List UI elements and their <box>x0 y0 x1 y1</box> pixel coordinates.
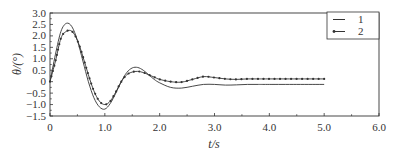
x-tick-label: 5.0 <box>317 121 331 133</box>
x-tick-label: 0 <box>47 121 53 133</box>
x-tick-label: 2.0 <box>153 121 167 133</box>
y-tick-label: −0.5 <box>26 87 46 99</box>
x-tick-label: 4.0 <box>262 121 276 133</box>
legend-label-1: 1 <box>358 13 364 25</box>
series-layer <box>49 23 325 109</box>
y-axis: 3.02.52.01.51.00.50−0.5−1.0−1.5 <box>26 7 53 122</box>
x-axis-label: t/s <box>208 137 220 151</box>
series-1 <box>50 23 324 109</box>
y-tick-label: 0.5 <box>32 64 46 76</box>
y-axis-label: θ/(°) <box>10 53 24 75</box>
y-tick-label: 1.0 <box>32 52 46 64</box>
y-tick-label: 3.0 <box>32 7 46 19</box>
x-tick-label: 6.0 <box>372 121 386 133</box>
line-chart: 3.02.52.01.51.00.50−0.5−1.0−1.5 01.02.03… <box>0 0 398 157</box>
x-tick-label: 3.0 <box>208 121 222 133</box>
y-tick-label: 1.5 <box>32 41 46 53</box>
x-tick-label: 1.0 <box>98 121 112 133</box>
legend-box <box>327 12 379 39</box>
series-2 <box>49 30 325 106</box>
y-tick-label: −1.0 <box>26 98 46 110</box>
y-tick-label: 0 <box>41 75 47 87</box>
legend: 1 2 <box>327 12 379 39</box>
legend-marker-2 <box>333 30 336 33</box>
legend-label-2: 2 <box>358 25 364 37</box>
y-tick-label: −1.5 <box>26 110 46 122</box>
y-tick-label: 2.0 <box>32 29 46 41</box>
y-tick-label: 2.5 <box>32 18 46 30</box>
